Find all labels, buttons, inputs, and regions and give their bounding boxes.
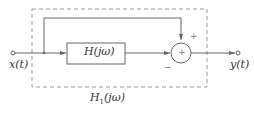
output-label: y(t) [230, 58, 249, 71]
block-diagram [0, 0, 254, 113]
block-label: H(jω) [84, 45, 115, 58]
feedforward-sign: + [190, 31, 198, 41]
block-path-sign: − [164, 62, 172, 72]
input-terminal [11, 51, 15, 55]
overall-transfer-label: H1(jω) [90, 91, 125, 106]
output-terminal [236, 51, 240, 55]
input-label: x(t) [9, 58, 28, 71]
summer-symbol: + [178, 47, 186, 57]
